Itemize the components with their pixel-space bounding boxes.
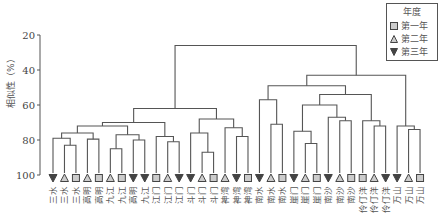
leaf-label: 神湾 [232, 186, 242, 204]
dendrogram-branch [340, 121, 351, 173]
dendrogram-branch [305, 144, 316, 174]
leaf-label: 南沙 [335, 186, 345, 204]
leaf-label: 崖门 [300, 186, 310, 204]
legend-label: 第二年 [401, 32, 428, 45]
leaf-label: 三水 [48, 186, 58, 204]
y-tick-label: 80 [22, 135, 35, 146]
dendrogram-branch [374, 126, 385, 173]
triangle-down-marker-icon [233, 175, 241, 183]
triangle-down-marker-icon [393, 175, 401, 183]
triangle-up-marker-icon [267, 174, 275, 182]
leaf-label: 高明 [82, 186, 92, 204]
dendrogram-branch [294, 131, 311, 173]
triangle-up-marker-icon [370, 174, 378, 182]
dendrogram-branch [53, 138, 70, 173]
triangle-down-marker-icon [255, 175, 263, 183]
triangle-down-marker-icon [129, 175, 137, 183]
y-tick-label: 100 [16, 170, 35, 181]
leaf-label: 南沙 [323, 186, 333, 204]
leaf-label: 神湾 [243, 186, 253, 204]
triangle-down-marker-icon [141, 175, 149, 183]
square-marker-icon [210, 175, 217, 182]
legend: 年度 第一年 第二年 第三年 [386, 3, 438, 61]
leaf-label: 南沙 [346, 186, 356, 204]
dendrogram-branch [134, 109, 217, 123]
dendrogram-branch [397, 126, 414, 173]
leaf-label: 伶仃洋 [369, 186, 379, 213]
leaf-label: 九江 [117, 186, 127, 204]
triangle-up-marker-icon [106, 174, 114, 182]
triangle-down-marker-icon [324, 175, 332, 183]
y-axis-label: 相似性（%） [4, 54, 17, 108]
square-marker-icon [279, 175, 286, 182]
dendrogram-branch [328, 117, 345, 173]
dendrogram-branch [302, 105, 336, 131]
leaf-label: 三水 [71, 186, 81, 204]
triangle-down-marker-icon [49, 175, 57, 183]
triangle-up-marker-icon [198, 174, 206, 182]
dendrogram-branch [409, 130, 420, 174]
dendrogram-branch [64, 145, 75, 173]
triangle-up-marker-icon [390, 35, 398, 43]
dendrogram-branch [168, 142, 179, 173]
square-marker-icon [359, 175, 366, 182]
triangle-up-marker-icon [83, 174, 91, 182]
leaf-label: 斗门 [209, 186, 219, 204]
triangle-up-marker-icon [221, 174, 229, 182]
leaf-label: 万山 [404, 186, 414, 204]
square-marker-icon [118, 175, 125, 182]
y-tick-label: 20 [22, 30, 35, 41]
dendrogram-branch [87, 139, 98, 173]
leaf-label: 伶仃洋 [381, 186, 391, 213]
square-marker-icon [153, 175, 160, 182]
leaf-label: 江门 [163, 186, 173, 204]
square-marker-icon [95, 175, 102, 182]
dendrogram-branch [237, 137, 248, 174]
dendrogram-branch [259, 100, 276, 173]
legend-label: 第三年 [401, 45, 428, 58]
leaf-label: 万山 [392, 186, 402, 204]
leaf-label: 九江 [140, 186, 150, 204]
triangle-down-marker-icon [290, 175, 298, 183]
leaf-label: 江门 [174, 186, 184, 204]
square-marker-icon [313, 175, 320, 182]
leaf-label: 高明 [128, 186, 138, 204]
triangle-down-marker-icon [187, 175, 195, 183]
triangle-up-marker-icon [164, 174, 172, 182]
leaf-label: 三水 [59, 186, 69, 204]
dendrogram-branch [363, 121, 380, 173]
triangle-up-marker-icon [301, 174, 309, 182]
y-tick-label: 60 [22, 100, 35, 111]
leaf-label: 神湾 [220, 186, 230, 204]
leaf-label: 南水 [277, 186, 287, 204]
leaf-label: 南水 [266, 186, 276, 204]
legend-title: 年度 [387, 6, 437, 19]
dendrogram-branch [175, 46, 356, 109]
leaf-label: 崖门 [289, 186, 299, 204]
legend-item-year2: 第二年 [387, 32, 437, 45]
leaf-label: 南水 [254, 186, 264, 204]
leaf-label: 万山 [415, 186, 425, 204]
triangle-down-marker-icon [382, 175, 390, 183]
dendrogram-branch [133, 140, 144, 173]
triangle-up-marker-icon [336, 174, 344, 182]
square-marker-icon [348, 175, 355, 182]
dendrogram-branch [110, 149, 121, 173]
triangle-up-marker-icon [60, 174, 68, 182]
dendrogram-branch [268, 86, 345, 100]
dendrogram-branch [225, 128, 242, 173]
dendrogram-chart: 20406080100三水三水三水高明高明九江九江高明九江江门江门江门斗门斗门斗… [0, 0, 442, 224]
leaf-label: 高明 [94, 186, 104, 204]
triangle-down-marker-icon [175, 175, 183, 183]
y-tick-label: 40 [22, 65, 35, 76]
legend-item-year1: 第一年 [387, 19, 437, 32]
square-marker-icon [417, 175, 424, 182]
leaf-label: 江门 [151, 186, 161, 204]
leaf-label: 崖门 [312, 186, 322, 204]
dendrogram-branch [202, 152, 213, 173]
dendrogram-branch [307, 75, 406, 126]
dendrogram-branch [116, 135, 139, 149]
dendrogram-branch [191, 133, 208, 173]
legend-item-year3: 第三年 [387, 45, 437, 58]
triangle-down-marker-icon [390, 48, 398, 56]
